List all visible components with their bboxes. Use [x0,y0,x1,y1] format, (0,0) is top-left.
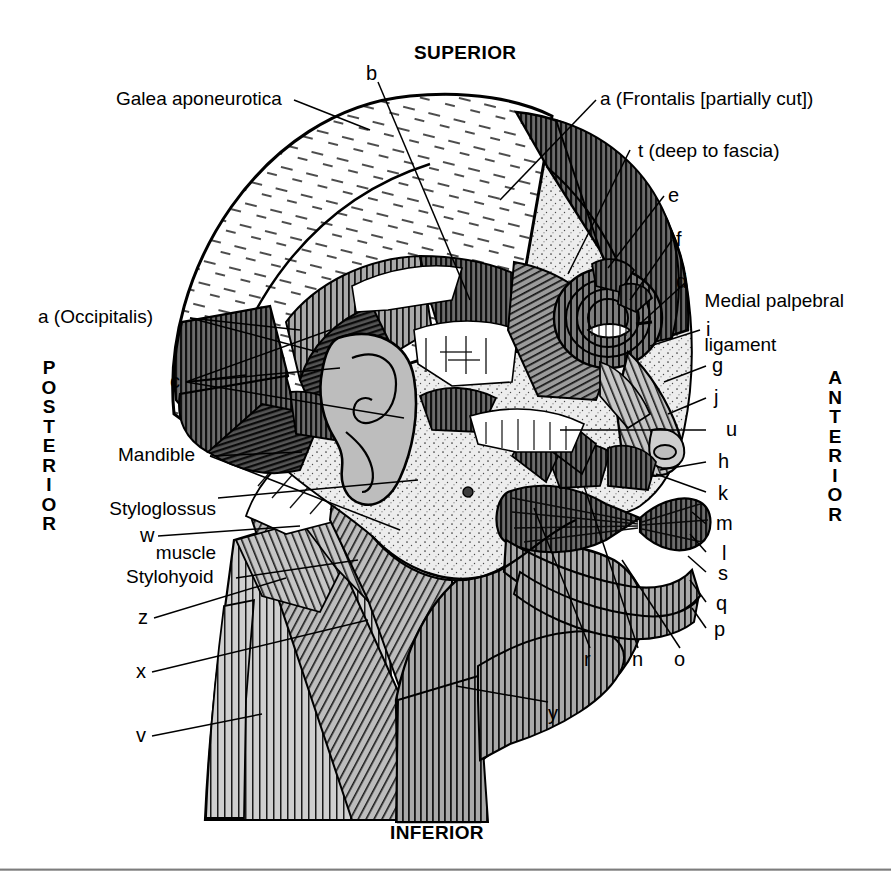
label-k: k [718,482,728,504]
label-c: c [170,370,180,392]
label-v: v [136,724,146,746]
label-s: s [718,562,728,584]
label-b: b [366,62,377,84]
label-y: y [548,702,558,724]
label-d: d [676,270,687,292]
label-j: j [714,386,718,408]
label-mandible: Mandible [118,444,195,466]
label-g: g [712,354,723,376]
label-medial-palpebral-ligament: Medial palpebral ligament [694,268,844,356]
label-frontalis: a (Frontalis [partially cut]) [600,88,813,110]
label-w: w [140,524,154,546]
direction-superior: SUPERIOR [414,42,516,64]
label-l: l [722,542,726,564]
label-stylohyoid: Stylohyoid [126,566,214,588]
label-x: x [136,660,146,682]
direction-posterior: POSTE RIOR [36,358,62,534]
label-e: e [668,184,679,206]
styloglossus-line2: muscle [156,542,216,563]
head-illustration [152,82,711,822]
label-f: f [676,228,682,250]
label-r: r [584,648,591,670]
label-h: h [718,450,729,472]
medial-palpebral-line2: ligament [705,334,777,355]
label-p: p [714,618,725,640]
label-t-deep-to-fascia: t (deep to fascia) [638,140,780,162]
label-z: z [138,606,148,628]
label-m: m [716,512,733,534]
head-anatomy-figure [0,0,891,886]
label-u: u [726,418,737,440]
page-divider-rule [0,868,891,871]
styloglossus-line1: Styloglossus [109,498,216,519]
label-o: o [674,648,685,670]
label-n: n [632,648,643,670]
label-q: q [716,592,727,614]
label-styloglossus-muscle: Styloglossus muscle [92,476,216,564]
label-i: i [706,318,710,340]
label-occipitalis: a (Occipitalis) [38,306,153,328]
medial-palpebral-line1: Medial palpebral [705,290,844,311]
head-anatomy-svg [0,0,891,886]
direction-anterior: ANTER IOR [822,368,848,524]
direction-inferior: INFERIOR [390,822,484,844]
label-galea-aponeurotica: Galea aponeurotica [116,88,282,110]
